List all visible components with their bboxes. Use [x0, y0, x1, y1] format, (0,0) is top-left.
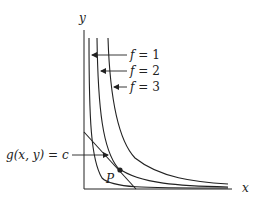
point-label: P: [105, 172, 115, 186]
x-axis-label: x: [242, 181, 249, 195]
label-f1: f = 1: [129, 48, 160, 62]
label-f3: f = 3: [129, 80, 160, 94]
tangent-point: [117, 167, 122, 172]
constraint-label: g(x, y) = c: [6, 148, 69, 162]
level-curve-f3: [108, 38, 228, 184]
lagrange-diagram: y x P f = 1 f = 2 f = 3 g(x, y) = c: [0, 0, 254, 202]
label-f2: f = 2: [129, 64, 160, 78]
level-curve-f2: [97, 38, 228, 187]
y-axis-label: y: [78, 11, 86, 25]
